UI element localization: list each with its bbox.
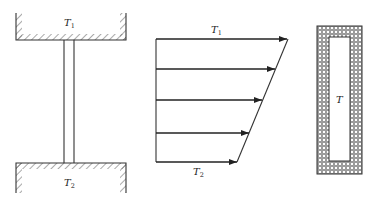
bottom-reservoir-label: T2 xyxy=(64,177,75,190)
top-reservoir-label: T1 xyxy=(64,17,75,30)
panel-b-profile: T1 T2 xyxy=(156,24,288,179)
connecting-rod xyxy=(64,40,74,163)
panel-a-reservoirs: T1 T2 xyxy=(16,13,126,193)
profile-bottom-label: T2 xyxy=(193,166,204,179)
panel-c-insulated-box: T xyxy=(317,26,362,174)
bottom-reservoir: T2 xyxy=(16,163,126,193)
diagram-canvas: T1 T2 T1 T2 xyxy=(0,0,374,202)
top-reservoir: T1 xyxy=(16,13,126,40)
profile-top-label: T1 xyxy=(211,24,222,37)
